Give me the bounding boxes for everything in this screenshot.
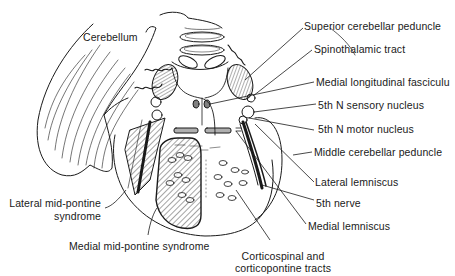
label-middle-cerebellar-peduncle: Middle cerebellar peduncle bbox=[314, 146, 442, 158]
label-5th-n-motor-nucleus: 5th N motor nucleus bbox=[318, 123, 414, 135]
superior-cerebellar-peduncle-right bbox=[223, 61, 258, 103]
medial-lesion-area bbox=[156, 138, 201, 228]
label-medial-longitudinal-fasciculus: Medial longitudinal fasciculu bbox=[316, 76, 450, 88]
label-corticospinal-line2: corticopontine tracts bbox=[228, 262, 338, 274]
diagram-drawing bbox=[0, 0, 455, 276]
label-lateral-lemniscus: Lateral lemniscus bbox=[315, 176, 398, 188]
label-lateral-mid-pontine-syndrome-line2: syndrome bbox=[6, 210, 101, 222]
label-corticospinal-line1: Corticospinal and bbox=[228, 250, 338, 262]
label-medial-lemniscus: Medial lemniscus bbox=[308, 220, 390, 232]
label-superior-cerebellar-peduncle: Superior cerebellar peduncle bbox=[304, 20, 441, 32]
label-medial-mid-pontine-syndrome: Medial mid-pontine syndrome bbox=[69, 240, 209, 252]
label-5th-nerve: 5th nerve bbox=[316, 197, 361, 209]
pons-cross-section-diagram: Cerebellum Superior cerebellar peduncle … bbox=[0, 0, 455, 276]
label-spinothalamic-tract: Spinothalamic tract bbox=[314, 43, 405, 55]
label-5th-n-sensory-nucleus: 5th N sensory nucleus bbox=[318, 99, 424, 111]
label-cerebellum: Cerebellum bbox=[83, 31, 138, 43]
label-lateral-mid-pontine-syndrome-line1: Lateral mid-pontine bbox=[6, 197, 101, 209]
superior-cerebellar-peduncle-left bbox=[148, 61, 183, 103]
